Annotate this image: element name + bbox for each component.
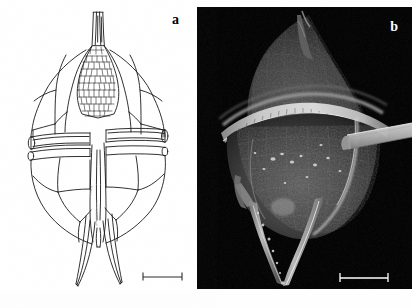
panel-label-a: a xyxy=(172,12,179,28)
panel-a: a xyxy=(0,0,197,292)
panel-b: b xyxy=(197,7,412,289)
figure: a xyxy=(0,0,412,308)
sem-micrograph xyxy=(197,7,412,289)
panel-label-b: b xyxy=(390,19,398,35)
theca-line-drawing xyxy=(0,0,197,292)
scalebar-a xyxy=(143,273,182,281)
